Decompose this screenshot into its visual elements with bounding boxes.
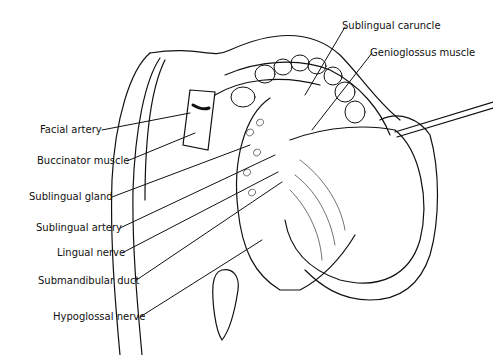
- retractor: [395, 102, 493, 137]
- label-buccinator-muscle: Buccinator muscle: [37, 155, 130, 167]
- label-genioglossus-muscle: Genioglossus muscle: [370, 47, 475, 59]
- teeth: [231, 55, 365, 123]
- buccinator-window: [183, 90, 215, 150]
- label-submandibular-duct: Submandibular duct: [38, 275, 139, 287]
- label-lingual-nerve: Lingual nerve: [57, 247, 125, 259]
- label-sublingual-caruncle: Sublingual caruncle: [342, 20, 441, 32]
- label-sublingual-artery: Sublingual artery: [36, 222, 122, 234]
- dissection-cavity: [237, 98, 355, 290]
- anatomy-figure: Facial artery Buccinator muscle Sublingu…: [0, 0, 493, 355]
- submandibular-gland: [213, 270, 238, 340]
- label-hypoglossal-nerve: Hypoglossal nerve: [53, 311, 145, 323]
- label-facial-artery: Facial artery: [40, 124, 102, 136]
- tongue: [285, 127, 424, 283]
- label-sublingual-gland: Sublingual gland: [29, 191, 113, 203]
